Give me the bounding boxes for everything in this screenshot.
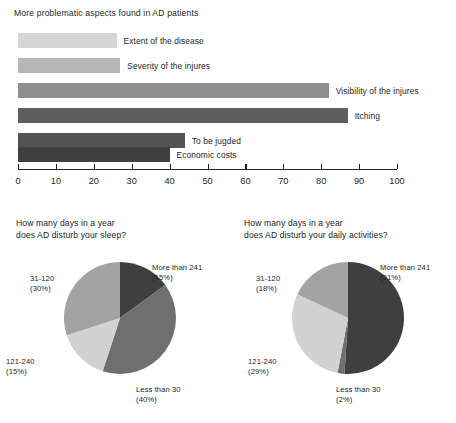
pie-right-title-line1: How many days in a year: [244, 218, 343, 228]
bar-rect-itching: [18, 108, 348, 123]
pie-left-callout-more-than-241: More than 241 (15%): [152, 263, 202, 282]
pie-right-title-line2: does AD disturb your daily activities?: [244, 230, 388, 240]
x-axis-tick-label: 10: [51, 176, 61, 186]
pie-left-callout-less-than-30: Less than 30 (40%): [136, 385, 181, 404]
bar-chart: More problematic aspects found in AD pat…: [0, 0, 456, 200]
callout-value: (40%): [136, 395, 157, 404]
bar-label: Severity of the injures: [127, 61, 210, 71]
x-axis-tick-label: 0: [15, 176, 20, 186]
callout-label: 31-120: [256, 274, 280, 283]
bar-label: Itching: [355, 111, 380, 121]
bar-row: To be jugded: [18, 133, 241, 148]
x-axis-tick: [321, 164, 322, 169]
x-axis-tick-label: 50: [202, 176, 212, 186]
x-axis-tick: [397, 164, 398, 169]
pie-left-callout-31-120: 31-120 (30%): [30, 274, 54, 293]
figure-page: More problematic aspects found in AD pat…: [0, 0, 456, 423]
bar-row: Economic costs: [18, 147, 237, 162]
pie-left-title-line1: How many days in a year: [16, 218, 115, 228]
pie-right-callout-more-than-241: More than 241 (51%): [380, 263, 430, 282]
x-axis-tick-label: 70: [278, 176, 288, 186]
x-axis-tick: [283, 164, 284, 169]
x-axis-tick-label: 80: [316, 176, 326, 186]
pie-chart-sleep: How many days in a year does AD disturb …: [0, 205, 228, 423]
callout-label: More than 241: [152, 263, 202, 272]
x-axis-tick: [170, 164, 171, 169]
callout-label: Less than 30: [136, 385, 181, 394]
pie-right-callout-121-240: 121-240 (29%): [248, 357, 277, 376]
bar-row: Itching: [18, 108, 380, 123]
callout-value: (51%): [380, 273, 401, 282]
pie-chart-daily-activities: How many days in a year does AD disturb …: [228, 205, 456, 423]
bar-label: Visibility of the injures: [336, 86, 419, 96]
bar-rect-severity-of-the-injures: [18, 58, 120, 73]
bar-rect-extent-of-the-disease: [18, 33, 117, 48]
bar-label: Economic costs: [177, 150, 237, 160]
x-axis-tick-label: 90: [354, 176, 364, 186]
pie-right-callout-31-120: 31-120 (18%): [256, 274, 280, 293]
pie-left-title: How many days in a year does AD disturb …: [16, 218, 126, 241]
x-axis-tick-label: 20: [89, 176, 99, 186]
x-axis-tick: [56, 164, 57, 169]
x-axis-tick-label: 60: [240, 176, 250, 186]
pie-left-callout-121-240: 121-240 (15%): [6, 357, 35, 376]
x-axis-tick: [94, 164, 95, 169]
x-axis-tick: [359, 164, 360, 169]
bar-row: Visibility of the injures: [18, 83, 419, 98]
x-axis-tick: [208, 164, 209, 169]
bar-row: Extent of the disease: [18, 33, 204, 48]
callout-value: (2%): [336, 395, 352, 404]
bar-row: Severity of the injures: [18, 58, 210, 73]
x-axis-tick-label: 100: [389, 176, 404, 186]
callout-label: 121-240: [248, 357, 277, 366]
callout-value: (15%): [6, 367, 27, 376]
callout-value: (30%): [30, 284, 51, 293]
callout-value: (29%): [248, 367, 269, 376]
bar-rect-visibility-of-the-injures: [18, 83, 329, 98]
callout-label: 121-240: [6, 357, 35, 366]
callout-label: More than 241: [380, 263, 430, 272]
x-axis-tick-label: 40: [164, 176, 174, 186]
pie-right-callout-less-than-30: Less than 30 (2%): [336, 385, 381, 404]
bar-chart-title: More problematic aspects found in AD pat…: [14, 8, 198, 18]
callout-label: 31-120: [30, 274, 54, 283]
x-axis-tick: [132, 164, 133, 169]
x-axis-tick-label: 30: [127, 176, 137, 186]
bar-label: To be jugded: [192, 136, 241, 146]
x-axis-tick: [18, 164, 19, 169]
bar-label: Extent of the disease: [124, 36, 204, 46]
bar-rect-to-be-jugded: [18, 133, 185, 148]
pie-left-title-line2: does AD disturb your sleep?: [16, 230, 126, 240]
x-axis-tick: [245, 164, 246, 169]
pie-right-title: How many days in a year does AD disturb …: [244, 218, 388, 241]
callout-value: (18%): [256, 284, 277, 293]
callout-value: (15%): [152, 273, 173, 282]
x-axis-line: [18, 169, 397, 170]
callout-label: Less than 30: [336, 385, 381, 394]
bar-rect-economic-costs: [18, 147, 170, 162]
